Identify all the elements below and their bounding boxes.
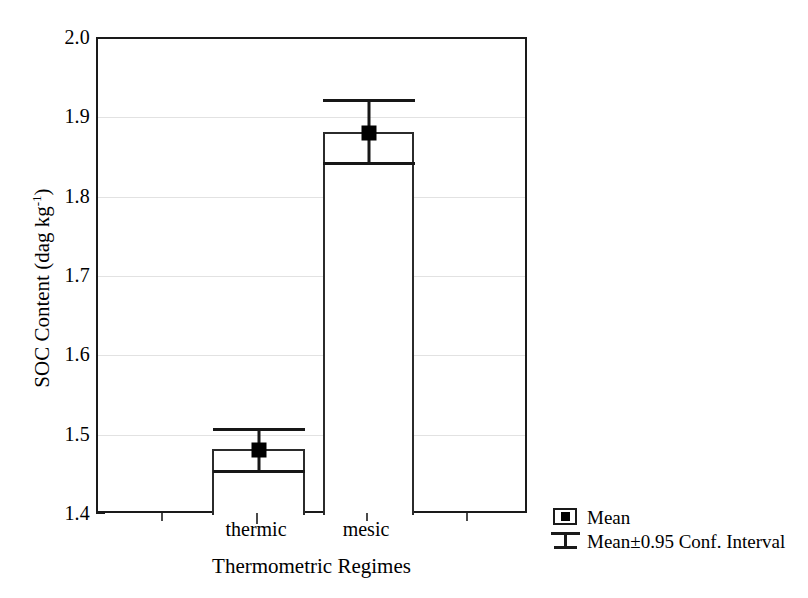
x-category-label-mesic: mesic (343, 518, 390, 541)
y-tick-label: 1.6 (64, 344, 90, 364)
gridline (98, 197, 525, 198)
legend-label-mean: Mean (587, 508, 630, 527)
errorbar-cap-upper-mesic (323, 99, 415, 102)
legend-label-conf-interval: Mean±0.95 Conf. Interval (587, 532, 785, 551)
gridline (98, 355, 525, 356)
errorbar-cap-lower-mesic (323, 162, 415, 165)
plot-area (96, 37, 527, 513)
y-tick-label: 1.8 (64, 186, 90, 206)
x-category-label-thermic: thermic (225, 518, 286, 541)
y-tick-label: 1.9 (64, 106, 90, 126)
y-tick-label: 2.0 (64, 27, 90, 47)
y-tick-label: 1.5 (64, 424, 90, 444)
error-bar-icon (548, 530, 582, 552)
errorbar-cap-upper-thermic (213, 428, 305, 431)
y-tick-label: 1.7 (64, 265, 90, 285)
mean-marker-thermic[interactable] (251, 443, 266, 458)
y-tick-label: 1.4 (64, 503, 90, 523)
gridline (98, 276, 525, 277)
gridline (98, 435, 525, 436)
errorbar-cap-lower-thermic (213, 470, 305, 473)
mean-marker-mesic[interactable] (361, 126, 376, 141)
legend-item-mean[interactable]: Mean (548, 505, 804, 529)
legend: Mean Mean±0.95 Conf. Interval (548, 505, 804, 553)
chart-figure: SOC Content (dag kg-1) 1.4 1.5 1.6 1.7 1… (0, 0, 808, 598)
bar-mesic[interactable] (323, 132, 414, 515)
legend-item-conf-interval[interactable]: Mean±0.95 Conf. Interval (548, 529, 804, 553)
filled-square-marker-icon (548, 506, 582, 528)
gridline (98, 117, 525, 118)
x-tick-mark (161, 513, 163, 521)
x-tick-mark (466, 513, 468, 521)
y-axis-tick-labels: 1.4 1.5 1.6 1.7 1.8 1.9 2.0 (40, 37, 90, 513)
x-axis-title: Thermometric Regimes (96, 554, 527, 579)
